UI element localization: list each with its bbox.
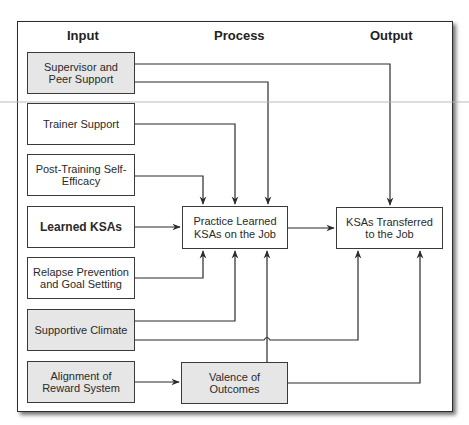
edge-relapse-practice bbox=[135, 251, 203, 278]
edge-selfefficacy-practice bbox=[135, 176, 203, 204]
box-practice-learned-ksas: Practice Learned KSAs on the Job bbox=[182, 206, 288, 249]
edge-climate-practice bbox=[135, 251, 235, 321]
scan-artifact-line bbox=[0, 101, 469, 103]
box-alignment-reward-system: Alignment of Reward System bbox=[27, 361, 135, 403]
box-trainer-support: Trainer Support bbox=[27, 103, 135, 145]
box-post-training-self-efficacy: Post-Training Self-Efficacy bbox=[27, 154, 135, 196]
box-supportive-climate: Supportive Climate bbox=[27, 309, 135, 351]
edge-valence-transferred bbox=[288, 251, 420, 383]
box-valence-of-outcomes: Valence of Outcomes bbox=[181, 362, 288, 404]
box-relapse-prevention: Relapse Prevention and Goal Setting bbox=[27, 257, 135, 299]
box-learned-ksas: Learned KSAs bbox=[27, 206, 135, 248]
box-ksas-transferred: KSAs Transferred to the Job bbox=[336, 207, 443, 249]
edge-trainer-practice bbox=[135, 124, 235, 204]
edge-climate-transferred bbox=[135, 251, 358, 340]
edge-supervisor-transferred bbox=[135, 64, 390, 205]
box-supervisor-peer-support: Supervisor and Peer Support bbox=[27, 52, 135, 94]
